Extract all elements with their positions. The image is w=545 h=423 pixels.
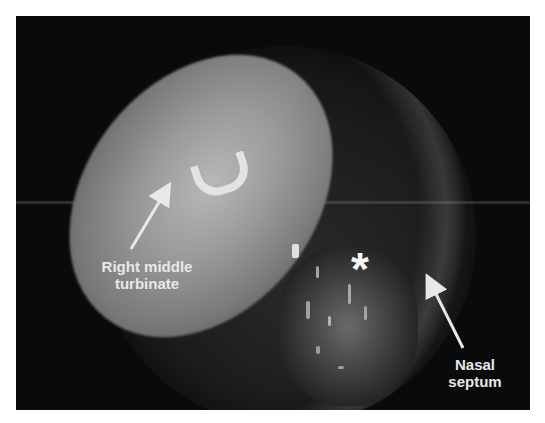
arrow-to-turbinate-icon — [131, 192, 165, 249]
endoscopic-image: * Right middle turbinate Nasal septum — [16, 16, 530, 410]
arrow-to-septum-icon — [431, 284, 463, 348]
annotation-arrows — [16, 16, 530, 410]
